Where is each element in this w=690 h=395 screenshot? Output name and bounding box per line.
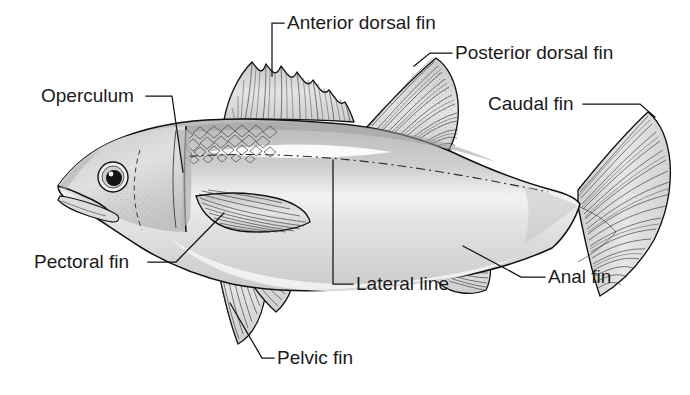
label-pelvic-fin: Pelvic fin (277, 347, 353, 368)
label-operculum: Operculum (41, 85, 134, 106)
label-pectoral-fin: Pectoral fin (34, 251, 129, 272)
label-lateral-line: Lateral line (356, 273, 449, 294)
fish-anatomy-illustration: Anterior dorsal fin Posterior dorsal fin… (0, 0, 690, 395)
label-posterior-dorsal-fin: Posterior dorsal fin (455, 42, 613, 63)
figure-canvas: Anterior dorsal fin Posterior dorsal fin… (0, 0, 690, 395)
anterior-dorsal-fin (224, 62, 354, 122)
label-anterior-dorsal-fin: Anterior dorsal fin (287, 12, 436, 33)
fish-head (58, 126, 191, 232)
label-anal-fin: Anal fin (548, 266, 611, 287)
fish-eye (98, 162, 128, 192)
label-caudal-fin: Caudal fin (488, 93, 574, 114)
